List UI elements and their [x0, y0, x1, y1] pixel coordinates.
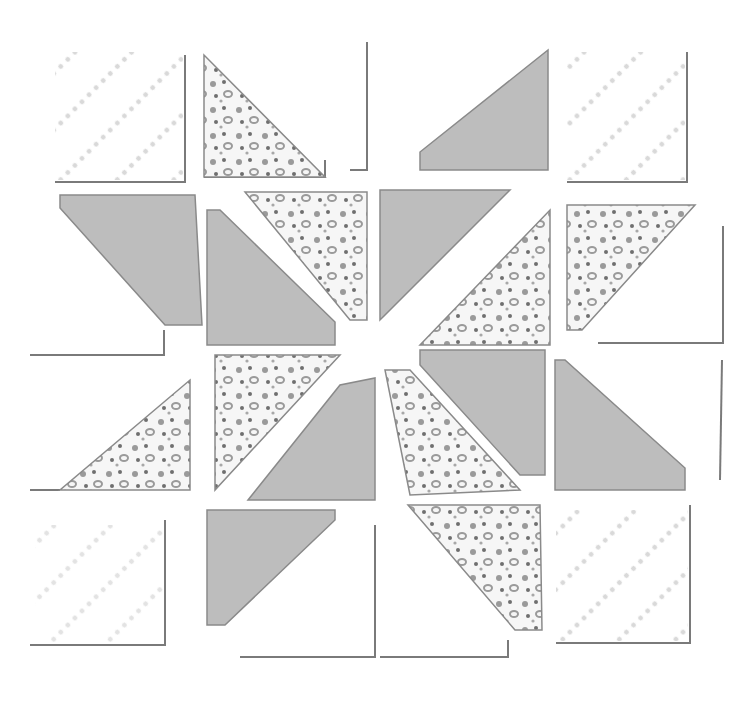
floral-triangle: [204, 55, 325, 177]
solid-triangle: [555, 360, 685, 490]
faint-dot-block: [55, 52, 183, 180]
solid-triangle: [207, 510, 335, 625]
faint-dot-block: [567, 52, 685, 180]
faint-dot-block: [35, 525, 163, 643]
floral-triangle: [567, 205, 695, 330]
solid-triangle: [60, 195, 202, 325]
faint-dot-block: [556, 510, 688, 641]
floral-triangle: [60, 380, 190, 490]
quilt-illustration: [0, 0, 753, 714]
solid-triangle: [420, 50, 548, 170]
floral-triangle: [408, 505, 542, 630]
